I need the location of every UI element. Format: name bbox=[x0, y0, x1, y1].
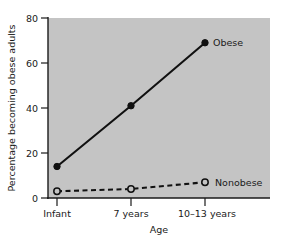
x-tick-label-infant: Infant bbox=[43, 208, 71, 219]
y-tick-label-40: 40 bbox=[26, 103, 38, 114]
line-chart: 0 20 40 60 80 Infant 7 years 10–13 years… bbox=[0, 0, 283, 239]
x-tick-label-7-years: 7 years bbox=[113, 208, 148, 219]
figure-container: 0 20 40 60 80 Infant 7 years 10–13 years… bbox=[0, 0, 283, 239]
y-axis-title: Percentage becoming obese adults bbox=[6, 24, 17, 191]
y-tick-label-60: 60 bbox=[26, 58, 38, 69]
nonobese-series-label: Nonobese bbox=[215, 177, 263, 188]
x-axis-ticks bbox=[57, 198, 205, 206]
nonobese-data-point bbox=[202, 179, 208, 185]
y-tick-label-0: 0 bbox=[32, 193, 38, 204]
obese-data-point bbox=[54, 163, 60, 169]
nonobese-data-point bbox=[54, 188, 60, 194]
obese-series-label: Obese bbox=[213, 37, 243, 48]
nonobese-data-point bbox=[128, 186, 134, 192]
x-tick-label-10-13-years: 10–13 years bbox=[178, 208, 236, 219]
x-axis-title: Age bbox=[150, 224, 169, 235]
y-tick-label-20: 20 bbox=[26, 148, 38, 159]
obese-data-point bbox=[128, 103, 134, 109]
obese-data-point bbox=[202, 40, 208, 46]
y-tick-label-80: 80 bbox=[26, 13, 38, 24]
y-axis-ticks bbox=[41, 18, 48, 198]
